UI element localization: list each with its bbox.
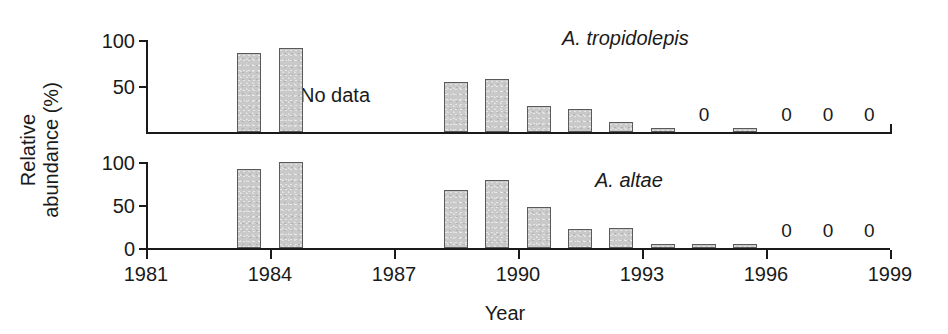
bar-bottom-1991	[568, 229, 592, 248]
bar-bottom-1990	[527, 207, 551, 248]
y-tick-bottom-100	[139, 162, 146, 164]
y-tick-label-bottom-50: 50	[81, 196, 135, 216]
x-axis-end-tick-top	[890, 124, 892, 134]
bar-bottom-1983	[237, 169, 261, 248]
x-tick-label-1996: 1996	[744, 264, 789, 284]
bar-top-1993	[651, 128, 675, 132]
bar-bottom-1984	[279, 162, 303, 248]
y-tick-top-100	[139, 40, 146, 42]
x-tick-label-1990: 1990	[496, 264, 541, 284]
x-tick-1999	[890, 250, 892, 259]
bar-bottom-1993	[651, 244, 675, 248]
x-tick-1993	[642, 250, 644, 259]
y-axis-title-line2: abundance (%)	[40, 82, 62, 218]
series-label-bottom: A. altae	[595, 170, 663, 190]
y-tick-label-top-100: 100	[81, 31, 135, 51]
bar-bottom-1988	[444, 190, 468, 248]
zero-label-top-1997: 0	[823, 105, 834, 124]
bar-top-1988	[444, 82, 468, 132]
bar-bottom-1995	[733, 244, 757, 248]
zero-label-top-1994: 0	[699, 105, 710, 124]
bar-bottom-1989	[485, 180, 509, 248]
y-tick-top-50	[139, 86, 146, 88]
y-tick-bottom-50	[139, 205, 146, 207]
bar-bottom-1994	[692, 244, 716, 248]
x-tick-label-1984: 1984	[248, 264, 293, 284]
bar-top-1991	[568, 109, 592, 132]
bar-top-1995	[733, 128, 757, 132]
x-tick-label-1999: 1999	[868, 264, 913, 284]
zero-label-bottom-1997: 0	[823, 221, 834, 240]
x-tick-1990	[518, 250, 520, 259]
y-axis-line-bottom	[146, 162, 148, 250]
zero-label-top-1998: 0	[864, 105, 875, 124]
bar-top-1992	[609, 122, 633, 132]
y-axis-line-top	[146, 40, 148, 134]
y-axis-title: Relative abundance (%)	[12, 40, 68, 260]
y-tick-label-bottom-100: 100	[81, 153, 135, 173]
x-axis-line-top	[146, 132, 890, 134]
bar-top-1990	[527, 106, 551, 132]
y-axis-title-line1: Relative	[17, 114, 39, 186]
relative-abundance-figure: Relative abundance (%) A. tropidolepis N…	[0, 0, 948, 334]
bar-top-1983	[237, 53, 261, 132]
zero-label-top-1996: 0	[781, 105, 792, 124]
zero-label-bottom-1996: 0	[781, 221, 792, 240]
x-tick-1984	[270, 250, 272, 259]
x-tick-1987	[394, 250, 396, 259]
bar-bottom-1992	[609, 228, 633, 248]
y-tick-bottom-0	[139, 248, 146, 250]
x-tick-label-1987: 1987	[372, 264, 417, 284]
x-tick-1996	[766, 250, 768, 259]
bar-top-1984	[279, 48, 303, 132]
y-axis-title-text: Relative abundance (%)	[17, 82, 63, 218]
x-tick-label-1993: 1993	[620, 264, 665, 284]
y-tick-label-bottom-0: 0	[81, 239, 135, 259]
bar-top-1989	[485, 79, 509, 132]
no-data-note: No data	[300, 85, 370, 105]
x-axis-title: Year	[485, 303, 525, 323]
x-tick-1981	[146, 250, 148, 259]
x-tick-label-1981: 1981	[124, 264, 169, 284]
zero-label-bottom-1998: 0	[864, 221, 875, 240]
series-label-top: A. tropidolepis	[562, 28, 689, 48]
y-tick-label-top-50: 50	[81, 77, 135, 97]
